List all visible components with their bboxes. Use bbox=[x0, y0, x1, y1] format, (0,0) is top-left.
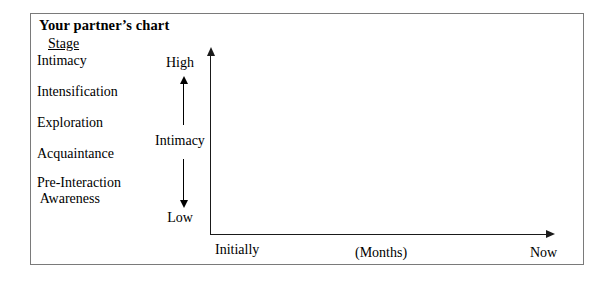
scale-low-label: Low bbox=[150, 210, 210, 226]
worksheet-chart-root: Your partner’s chart Stage Intimacy Inte… bbox=[0, 0, 612, 282]
arrow-up-icon bbox=[183, 83, 184, 125]
x-axis-end-label: Now bbox=[530, 245, 557, 261]
intimacy-scale: High Intimacy Low bbox=[150, 52, 210, 234]
x-axis-start-label: Initially bbox=[215, 242, 259, 258]
stage-column-header: Stage bbox=[48, 36, 79, 52]
plot-area[interactable] bbox=[211, 55, 556, 234]
x-axis-line bbox=[210, 234, 546, 235]
x-axis-title: (Months) bbox=[355, 245, 407, 261]
arrow-down-icon bbox=[183, 159, 184, 201]
scale-high-label: High bbox=[150, 55, 210, 71]
y-axis-title: Intimacy bbox=[150, 133, 210, 149]
page-title: Your partner’s chart bbox=[39, 17, 169, 34]
